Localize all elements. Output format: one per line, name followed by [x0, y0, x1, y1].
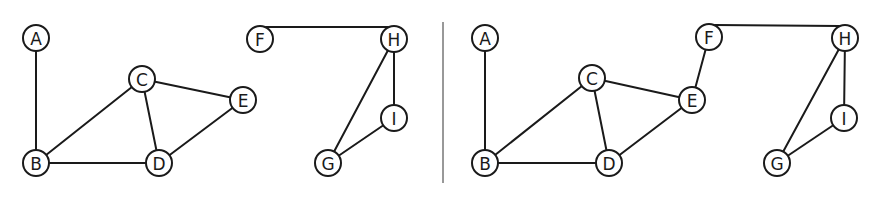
- node-h: H: [381, 26, 407, 52]
- node-label: F: [704, 28, 714, 48]
- edge-d-e: [609, 100, 692, 163]
- node-i: I: [831, 105, 857, 131]
- node-g: G: [764, 150, 790, 176]
- node-label: A: [479, 29, 491, 49]
- node-label: D: [602, 154, 615, 174]
- node-c: C: [579, 65, 605, 91]
- node-g: G: [315, 150, 341, 176]
- node-h: H: [832, 25, 858, 51]
- node-label: B: [479, 154, 491, 174]
- node-f: F: [247, 26, 273, 52]
- edge-c-e: [592, 78, 692, 100]
- node-a: A: [23, 25, 49, 51]
- edges: [36, 27, 394, 163]
- node-label: I: [391, 109, 396, 129]
- node-label: C: [136, 70, 148, 90]
- node-i: I: [381, 105, 407, 131]
- node-label: B: [30, 154, 42, 174]
- left-graph: ABCDEFGHI: [23, 25, 407, 176]
- node-d: D: [146, 150, 172, 176]
- node-e: E: [230, 87, 256, 113]
- edge-d-e: [159, 100, 243, 163]
- node-label: C: [586, 69, 598, 89]
- edge-h-g: [328, 39, 394, 163]
- graph-diagram: ABCDEFGHIABCDEFGHI: [0, 0, 879, 200]
- edge-b-c: [485, 78, 592, 163]
- node-label: E: [687, 91, 698, 111]
- node-label: H: [388, 30, 401, 50]
- node-f: F: [696, 24, 722, 50]
- node-b: B: [23, 150, 49, 176]
- node-label: F: [255, 30, 265, 50]
- node-c: C: [129, 66, 155, 92]
- node-label: G: [321, 154, 334, 174]
- node-label: A: [30, 29, 42, 49]
- node-label: E: [238, 91, 249, 111]
- node-a: A: [472, 25, 498, 51]
- edge-h-g: [777, 38, 845, 163]
- edge-f-h: [715, 25, 839, 26]
- node-e: E: [679, 87, 705, 113]
- graphs-layer: ABCDEFGHIABCDEFGHI: [23, 24, 858, 176]
- right-graph: ABCDEFGHI: [472, 24, 858, 176]
- edge-c-e: [142, 79, 243, 100]
- edges: [485, 25, 845, 163]
- node-label: H: [839, 29, 852, 49]
- node-d: D: [596, 150, 622, 176]
- node-label: D: [152, 154, 165, 174]
- node-label: G: [770, 154, 783, 174]
- node-label: I: [841, 109, 846, 129]
- node-b: B: [472, 150, 498, 176]
- edge-b-c: [36, 79, 142, 163]
